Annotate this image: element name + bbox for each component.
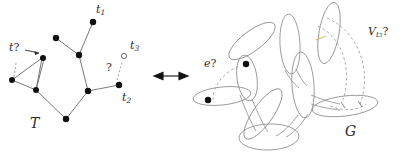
label-t2: t2: [122, 92, 131, 104]
graph-node: [205, 97, 211, 103]
label-question: ?: [106, 62, 112, 73]
label-t-query: t?: [9, 42, 19, 53]
graph-node: [243, 61, 249, 67]
label-vt3-query: Vt3?: [368, 26, 388, 38]
bag-ellipse: [224, 16, 281, 66]
bag-ellipse: [238, 84, 289, 145]
label-T: T: [30, 116, 39, 130]
bag-ellipse: [314, 1, 344, 66]
bag-ellipse: [278, 14, 301, 75]
label-t1: t1: [96, 4, 105, 16]
label-t3: t3: [130, 40, 139, 52]
arc-ticks: [341, 101, 362, 108]
bag-ellipse: [239, 123, 300, 151]
e-query-arc: [213, 66, 240, 100]
label-G: G: [345, 124, 356, 138]
tree-decomposition-figure: t? t1 t3 ? t2 T e? Vt3? G: [0, 0, 403, 155]
right-graph-graphics: [0, 0, 403, 155]
bag-ellipse: [311, 92, 379, 120]
highlight-segment: [316, 36, 326, 40]
vt3-query-arc-outer: [327, 18, 365, 104]
label-e-query: e?: [204, 58, 216, 69]
